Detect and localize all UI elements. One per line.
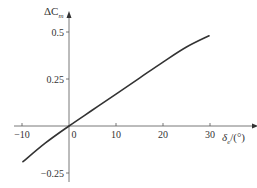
x-tick-label: −10 — [14, 129, 30, 140]
data-line — [23, 36, 209, 162]
y-tick-label: 0.25 — [47, 74, 65, 85]
x-axis-label-unit: /(°) — [230, 131, 245, 144]
x-tick-label: 10 — [111, 129, 121, 140]
y-tick-label: −0.25 — [41, 168, 64, 179]
x-tick-label: 30 — [205, 129, 215, 140]
y-axis-label: ΔCm — [44, 5, 63, 20]
x-tick-label: 0 — [72, 129, 77, 140]
y-ticks: 0.50.25−0.25 — [41, 27, 69, 179]
x-axis-label: δe/(°) — [222, 131, 245, 146]
x-ticks: −100102030 — [14, 123, 215, 140]
x-axis-arrow-icon — [252, 124, 257, 129]
chart: −100102030 0.50.25−0.25 ΔCm δe/(°) — [0, 0, 257, 188]
y-axis-arrow-icon — [67, 11, 72, 18]
y-axis-label-main: ΔC — [44, 5, 58, 17]
x-tick-label: 20 — [158, 129, 168, 140]
y-tick-label: 0.5 — [52, 27, 65, 38]
y-axis-label-sub: m — [58, 12, 63, 20]
